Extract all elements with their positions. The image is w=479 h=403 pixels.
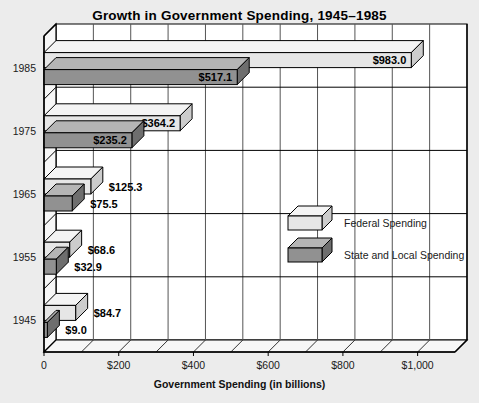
plot-floor (44, 340, 467, 352)
x-axis-tick-label: $1,000 (402, 359, 434, 371)
chart-container: Growth in Government Spending, 1945–1985… (0, 0, 479, 403)
x-axis-tick-label: $400 (182, 359, 206, 371)
bar-value-label: $32.9 (74, 261, 102, 273)
bar-value-label: $125.3 (109, 181, 143, 193)
bar-value-label: $84.7 (94, 307, 122, 319)
legend-label: State and Local Spending (344, 249, 464, 261)
chart-plot-area: 1985$983.0$517.11975$364.2$235.21965$125… (0, 0, 479, 403)
bar-top-face (44, 41, 423, 53)
bar-value-label: $75.5 (90, 198, 118, 210)
bar-value-label: $364.2 (141, 117, 175, 129)
bar-value-label: $68.6 (88, 244, 116, 256)
y-axis-tick-label: 1965 (13, 188, 37, 200)
bar-front-face (44, 259, 56, 274)
y-axis-tick-label: 1975 (13, 125, 37, 137)
x-axis-title: Government Spending (in billions) (0, 378, 479, 390)
bar-value-label: $983.0 (373, 54, 407, 66)
legend-swatch-front (288, 248, 322, 262)
y-axis-tick-label: 1955 (13, 251, 37, 263)
x-axis-tick-label: 0 (41, 359, 47, 371)
bar-top-face (44, 58, 249, 70)
x-axis-tick-label: $800 (331, 359, 355, 371)
bar-top-face (44, 121, 144, 133)
bar-front-face (44, 196, 72, 211)
x-axis-tick-label: $200 (107, 359, 131, 371)
y-axis-tick-label: 1985 (13, 62, 37, 74)
legend-swatch-front (288, 216, 322, 230)
bar-top-face (44, 104, 192, 116)
y-axis-tick-label: 1945 (13, 314, 37, 326)
bar-value-label: $517.1 (199, 71, 233, 83)
bar-value-label: $235.2 (93, 134, 127, 146)
x-axis-tick-label: $600 (257, 359, 281, 371)
bar-value-label: $9.0 (65, 324, 86, 336)
legend-label: Federal Spending (344, 217, 427, 229)
